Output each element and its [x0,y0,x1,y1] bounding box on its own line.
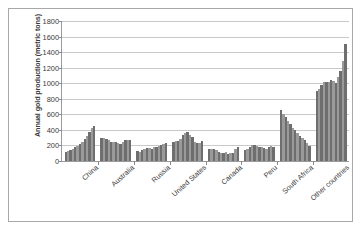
bar-group-south-africa [277,21,313,161]
y-axis-tick-label: 200 [29,141,59,150]
bar-group-russia [134,21,170,161]
y-axis-tick-label: 400 [29,125,59,134]
y-axis-tick-labels: 180016001400120010008006004002000 [29,21,59,161]
bar-group-other-countries [313,21,349,161]
y-axis-tick-label: 1600 [29,32,59,41]
chart-frame: Annual gold production (metric tons) 180… [8,8,353,222]
y-axis-tick-label: 1200 [29,63,59,72]
bar-group-canada [206,21,242,161]
x-axis-category-labels: ChinaAustraliaRussiaUnited StatesCanadaP… [61,163,348,218]
bar [237,147,239,161]
x-axis-category-label: United States [170,163,208,199]
bar [129,140,131,161]
x-axis-category-label: Peru [262,163,279,180]
bar [272,147,274,161]
x-axis-category-label: China [80,163,100,182]
plot-area [61,21,349,162]
x-axis-category-label: Russia [149,163,171,184]
y-axis-tick-label: 1000 [29,79,59,88]
x-axis-category-label: Canada [219,163,244,187]
bar [201,141,203,161]
y-axis-tick-label: 600 [29,110,59,119]
bar [344,44,346,161]
x-axis-category-label: Australia [109,163,136,188]
bar [165,143,167,161]
y-axis-tick-label: 1800 [29,17,59,26]
y-axis-tick-label: 800 [29,94,59,103]
bar-group-australia [98,21,134,161]
bar-groups [62,21,349,161]
bar-group-china [62,21,98,161]
y-axis-tick-mark [59,161,62,162]
bar-group-united-states [170,21,206,161]
bar [93,126,95,161]
y-axis-tick-label: 0 [29,157,59,166]
bar [308,146,310,161]
bar-group-peru [241,21,277,161]
x-axis-category-label: South Africa [280,163,315,196]
y-axis-tick-label: 1400 [29,48,59,57]
